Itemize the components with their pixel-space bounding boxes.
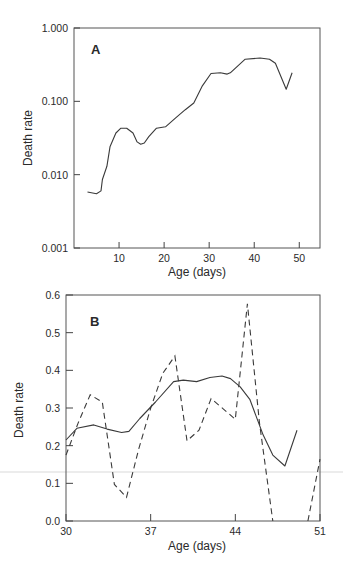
y-tick-label: 0.5: [45, 327, 60, 339]
y-tick-label: 0.001: [42, 242, 68, 254]
solid-series-line: [66, 376, 297, 466]
x-tick-label: 50: [293, 252, 305, 264]
y-tick-label: 1.000: [42, 22, 68, 34]
panel-b-plot-frame: [66, 295, 320, 521]
y-tick-label: 0.4: [45, 364, 60, 376]
panel-a-x-axis: 1020304050: [113, 242, 305, 264]
panel-b-series: [66, 304, 320, 521]
y-tick-label: 0.6: [45, 289, 60, 301]
panel-b-label: B: [90, 314, 99, 329]
dashed-series-line: [66, 304, 273, 521]
y-tick-label: 0.1: [45, 477, 60, 489]
x-tick-label: 37: [145, 525, 157, 537]
x-tick-label: 44: [229, 525, 241, 537]
x-tick-label: 40: [248, 252, 260, 264]
panel-b-x-axis: 30374451: [60, 514, 326, 537]
panel-a-x-axis-label: Age (days): [168, 265, 226, 279]
x-tick-label: 30: [203, 252, 215, 264]
y-tick-label: 0.100: [42, 95, 68, 107]
figure: 0.0010.0100.1001.000 1020304050 A Age (d…: [0, 0, 343, 570]
y-tick-label: 0.3: [45, 402, 60, 414]
y-tick-label: 0.0: [45, 515, 60, 527]
x-tick-label: 30: [60, 525, 72, 537]
panel-a-y-axis-label: Death rate: [21, 110, 35, 166]
panel-b-x-axis-label: Age (days): [168, 539, 226, 553]
panel-a-chart: 0.0010.0100.1001.000 1020304050 A Age (d…: [21, 22, 320, 279]
panel-a-label: A: [91, 42, 101, 57]
y-tick-label: 0.010: [42, 169, 68, 181]
x-tick-label: 20: [158, 252, 170, 264]
panel-b-y-axis: 0.00.10.20.30.40.50.6: [45, 289, 73, 527]
x-tick-label: 51: [314, 525, 326, 537]
panel-a-series: [88, 58, 293, 194]
panel-b-chart: 0.00.10.20.30.40.50.6 30374451 B Age (da…: [12, 289, 326, 553]
panel-a-plot-frame: [74, 28, 320, 248]
dashed-series-line: [308, 459, 320, 521]
x-tick-label: 10: [113, 252, 125, 264]
panel-b-y-axis-label: Death rate: [12, 382, 26, 438]
y-tick-label: 0.2: [45, 440, 60, 452]
solid-series-line: [88, 58, 293, 194]
